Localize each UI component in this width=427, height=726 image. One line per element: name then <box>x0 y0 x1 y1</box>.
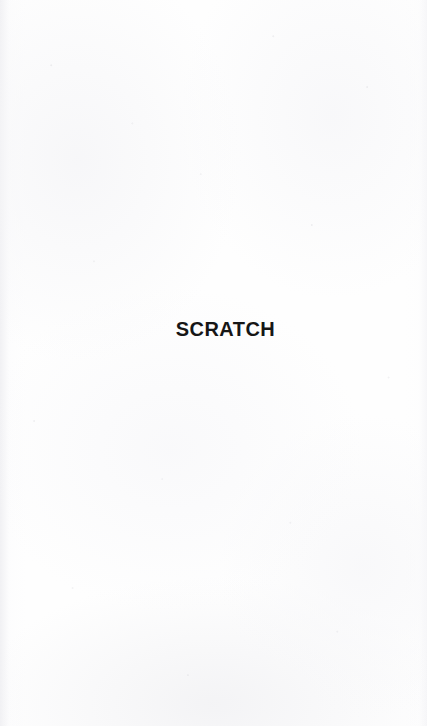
page-title: SCRATCH <box>176 319 275 339</box>
scanned-page: SCRATCH <box>0 0 427 726</box>
scan-texture-overlay <box>0 0 427 726</box>
part-title-block: SCRATCH <box>0 319 427 340</box>
